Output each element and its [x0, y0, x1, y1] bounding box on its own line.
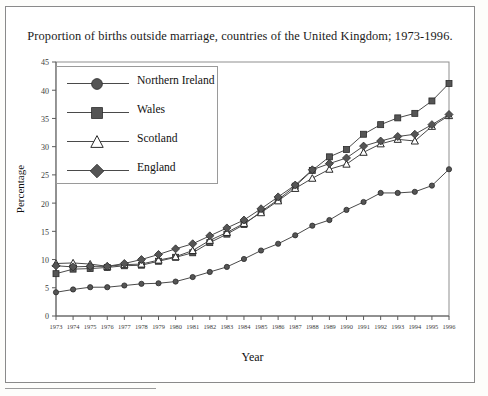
- line-chart-svg: 0510152025303540451973197419751976197719…: [0, 0, 488, 396]
- svg-text:35: 35: [41, 115, 49, 124]
- svg-text:1981: 1981: [186, 323, 199, 330]
- svg-text:1985: 1985: [255, 323, 268, 330]
- svg-text:1992: 1992: [374, 323, 387, 330]
- svg-text:1994: 1994: [408, 323, 422, 330]
- svg-text:1976: 1976: [101, 323, 114, 330]
- filled-circle-icon: [88, 75, 106, 93]
- svg-text:25: 25: [41, 171, 49, 180]
- legend-label: Northern Ireland: [137, 74, 215, 87]
- legend-entry-northern-ireland: Northern Ireland: [57, 69, 219, 98]
- plot-area: 0510152025303540451973197419751976197719…: [0, 0, 488, 396]
- legend-entry-england: England: [57, 156, 219, 185]
- svg-text:1980: 1980: [169, 323, 182, 330]
- svg-text:Percentage: Percentage: [14, 165, 26, 213]
- svg-text:1993: 1993: [391, 323, 404, 330]
- svg-text:1978: 1978: [135, 323, 148, 330]
- page-footer-rule: [5, 388, 156, 389]
- svg-text:5: 5: [45, 284, 49, 293]
- open-triangle-icon: [88, 133, 106, 151]
- legend-label: England: [137, 161, 176, 174]
- svg-text:1986: 1986: [272, 323, 285, 330]
- svg-text:1982: 1982: [203, 323, 216, 330]
- svg-text:1983: 1983: [220, 323, 233, 330]
- legend-entry-scotland: Scotland: [57, 127, 219, 156]
- svg-text:30: 30: [41, 143, 49, 152]
- svg-text:1977: 1977: [118, 323, 132, 330]
- svg-text:0: 0: [45, 312, 49, 321]
- chart-page: Proportion of births outside marriage, c…: [0, 0, 488, 396]
- svg-text:1990: 1990: [340, 323, 353, 330]
- legend-label: Wales: [137, 103, 165, 116]
- svg-text:15: 15: [41, 228, 49, 237]
- svg-text:1974: 1974: [67, 323, 81, 330]
- svg-text:10: 10: [41, 256, 49, 265]
- filled-diamond-icon: [88, 162, 106, 180]
- svg-text:1995: 1995: [426, 323, 439, 330]
- svg-text:Year: Year: [241, 350, 263, 364]
- svg-text:20: 20: [41, 200, 49, 209]
- filled-square-icon: [88, 104, 106, 122]
- svg-text:1987: 1987: [289, 323, 303, 330]
- svg-text:1988: 1988: [306, 323, 319, 330]
- svg-text:1984: 1984: [238, 323, 252, 330]
- svg-text:1989: 1989: [323, 323, 336, 330]
- svg-text:1996: 1996: [443, 323, 456, 330]
- svg-text:40: 40: [41, 87, 49, 96]
- chart-legend: Northern Ireland Wales Scotland England: [56, 66, 218, 184]
- svg-text:1973: 1973: [50, 323, 63, 330]
- svg-text:1975: 1975: [84, 323, 97, 330]
- legend-entry-wales: Wales: [57, 98, 219, 127]
- svg-text:1979: 1979: [152, 323, 165, 330]
- svg-text:1991: 1991: [357, 323, 370, 330]
- svg-text:45: 45: [41, 58, 49, 67]
- legend-label: Scotland: [137, 132, 178, 145]
